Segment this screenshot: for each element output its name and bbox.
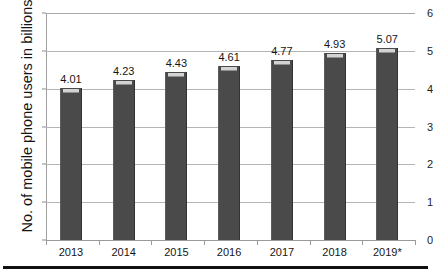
bar-cap (168, 73, 184, 77)
bar (271, 60, 293, 240)
bar (113, 80, 135, 240)
bar-cap (63, 89, 79, 93)
bar (165, 72, 187, 240)
bar (324, 53, 346, 240)
y-tick-label: 5 (413, 45, 433, 57)
x-tick-label-2013: 2013 (41, 246, 101, 258)
bar-value-label: 4.01 (49, 73, 93, 85)
x-tick-mark (204, 240, 205, 245)
bar-value-label: 4.77 (260, 45, 304, 57)
bar-cap (116, 81, 132, 85)
bar-value-label: 4.23 (102, 65, 146, 77)
x-tick-mark (310, 240, 311, 245)
plot-area: 4.01 4.23 4.43 4.61 4.77 4.93 5.07 (46, 13, 415, 240)
x-tick-label-2017: 2017 (252, 246, 312, 258)
x-tick-label-2019: 2019* (357, 246, 417, 258)
x-tick-label-2014: 2014 (94, 246, 154, 258)
x-tick-label-2018: 2018 (305, 246, 365, 258)
bar-cap (221, 67, 237, 71)
y-axis-title: No. of mobile phone users in billions (16, 0, 38, 236)
bar-value-label: 5.07 (365, 33, 409, 45)
x-tick-label-2016: 2016 (199, 246, 259, 258)
bar-chart-figure: No. of mobile phone users in billions 6 … (0, 0, 433, 276)
bar (218, 66, 240, 240)
bar-value-label: 4.93 (313, 38, 357, 50)
y-tick-label: 4 (413, 83, 433, 95)
x-axis-line (46, 240, 415, 241)
y-tick-label: 6 (413, 7, 433, 19)
y-tick-label: 2 (413, 158, 433, 170)
x-tick-label-2015: 2015 (146, 246, 206, 258)
bar (376, 48, 398, 240)
bar-value-label: 4.43 (154, 57, 198, 69)
bar-cap (327, 54, 343, 58)
y-tick-label: 1 (413, 196, 433, 208)
bottom-divider-rule (3, 266, 428, 269)
x-tick-mark (257, 240, 258, 245)
x-tick-mark (362, 240, 363, 245)
x-tick-mark (151, 240, 152, 245)
x-tick-mark (415, 240, 416, 245)
bar (60, 88, 82, 240)
y-tick-label: 0 (413, 234, 433, 246)
bar-cap (379, 49, 395, 53)
x-tick-mark (99, 240, 100, 245)
x-tick-mark (46, 240, 47, 245)
bar-value-label: 4.61 (207, 51, 251, 63)
y-tick-label: 3 (413, 121, 433, 133)
bar-cap (274, 61, 290, 65)
gridline-6 (46, 13, 415, 14)
